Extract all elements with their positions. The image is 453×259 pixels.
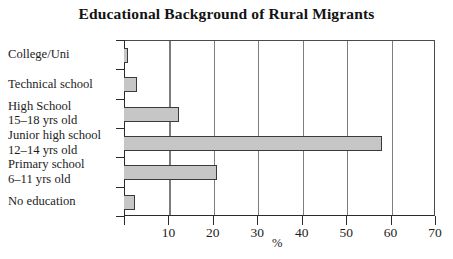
x-axis-tick-10 [168, 216, 169, 225]
y-axis-label: High School15–18 yrs old [8, 99, 116, 128]
x-axis-tick-40 [302, 216, 303, 225]
bar [124, 107, 179, 122]
bar-row [125, 70, 436, 99]
x-axis-tick-70 [435, 216, 436, 225]
y-axis-tick [116, 40, 125, 41]
y-axis-label-line: 15–18 yrs old [8, 113, 116, 128]
y-axis-tick [116, 99, 125, 100]
plot-area [124, 40, 435, 216]
y-axis-category-labels: College/UniTechnical schoolHigh School15… [0, 40, 116, 216]
y-axis-label: College/Uni [8, 47, 116, 62]
x-axis-title: % [257, 236, 297, 251]
y-axis-tick [116, 128, 125, 129]
bar [124, 165, 217, 180]
x-axis-tick-50 [346, 216, 347, 225]
x-axis-tick-label: 50 [326, 225, 366, 241]
y-axis-label-line: High School [8, 99, 116, 114]
y-axis-label-line: Primary school [8, 157, 116, 172]
y-axis-label: Primary school6–11 yrs old [8, 157, 116, 186]
x-axis-tick-0 [124, 216, 125, 225]
y-axis-label-line: College/Uni [8, 47, 116, 62]
bar [124, 48, 128, 63]
x-axis-tick-30 [257, 216, 258, 225]
bar-row [125, 100, 436, 129]
x-axis-tick-label: 10 [148, 225, 188, 241]
bar-row [125, 41, 436, 70]
y-axis-label-line: 12–14 yrs old [8, 143, 116, 158]
y-axis-tick [116, 69, 125, 70]
x-axis-tick-label: 70 [415, 225, 453, 241]
y-axis-tick [116, 157, 125, 158]
y-axis-tick [116, 187, 125, 188]
bars-group [125, 41, 434, 215]
x-axis-tick-60 [391, 216, 392, 225]
bar-row [125, 129, 436, 158]
x-axis-tick-label: 60 [371, 225, 411, 241]
bar-row [125, 188, 436, 217]
bar [124, 77, 137, 92]
y-axis-label: Junior high school12–14 yrs old [8, 128, 116, 157]
y-axis-label: No education [8, 194, 116, 209]
x-axis-tick-20 [213, 216, 214, 225]
y-axis-label-line: 6–11 yrs old [8, 172, 116, 187]
y-axis-label-line: No education [8, 194, 116, 209]
bar [124, 136, 382, 151]
y-axis-label-line: Junior high school [8, 128, 116, 143]
x-axis-tick-label: 20 [193, 225, 233, 241]
y-axis-label: Technical school [8, 77, 116, 92]
chart-title: Educational Background of Rural Migrants [0, 5, 453, 23]
y-axis-label-line: Technical school [8, 77, 116, 92]
bar [124, 195, 135, 210]
bar-row [125, 158, 436, 187]
